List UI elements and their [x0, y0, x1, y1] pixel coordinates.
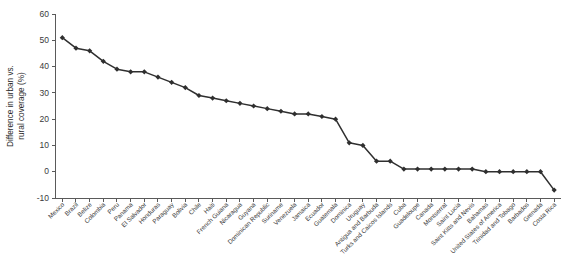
y-tick-label: 10 [40, 140, 50, 150]
data-point-marker [415, 166, 420, 171]
y-axis-title-line: Difference in urban vs. [6, 65, 15, 147]
y-tick-label: 0 [44, 166, 49, 176]
data-point-marker [524, 169, 529, 174]
y-axis-title: Difference in urban vs.rural coverage (%… [6, 65, 26, 147]
data-point-marker [292, 111, 297, 116]
y-tick-label: 60 [40, 9, 50, 19]
data-point-marker [511, 169, 516, 174]
y-tick-label: 40 [40, 61, 50, 71]
y-tick-label: 30 [40, 88, 50, 98]
y-axis: -100102030405060 [37, 9, 56, 203]
y-tick-label: 50 [40, 35, 50, 45]
data-point-marker [169, 80, 174, 85]
data-series [60, 35, 557, 193]
y-tick-label: -10 [37, 193, 50, 203]
data-point-marker [155, 74, 160, 79]
data-point-marker [456, 166, 461, 171]
x-axis [56, 198, 562, 202]
data-point-marker [278, 109, 283, 114]
data-point-marker [442, 166, 447, 171]
data-point-marker [128, 69, 133, 74]
x-tick-label: Mexico [46, 200, 65, 219]
data-point-marker [497, 169, 502, 174]
data-point-marker [224, 98, 229, 103]
data-point-marker [306, 111, 311, 116]
data-point-marker [265, 106, 270, 111]
data-point-marker [319, 114, 324, 119]
data-point-marker [237, 101, 242, 106]
data-point-marker [470, 166, 475, 171]
line-chart: -100102030405060 Difference in urban vs.… [0, 0, 566, 276]
chart-container: -100102030405060 Difference in urban vs.… [0, 0, 566, 276]
x-tick-label: Bolivia [170, 200, 188, 218]
y-tick-label: 20 [40, 114, 50, 124]
data-point-marker [251, 103, 256, 108]
data-point-marker [142, 69, 147, 74]
data-point-marker [210, 96, 215, 101]
x-tick-label: Chile [187, 200, 202, 215]
y-axis-title-line: rural coverage (%) [17, 72, 26, 140]
data-point-marker [429, 166, 434, 171]
data-point-marker [483, 169, 488, 174]
x-axis-tick-labels: MexicoBrazilBelizeColombiaPeruPanamaEl S… [46, 200, 557, 255]
